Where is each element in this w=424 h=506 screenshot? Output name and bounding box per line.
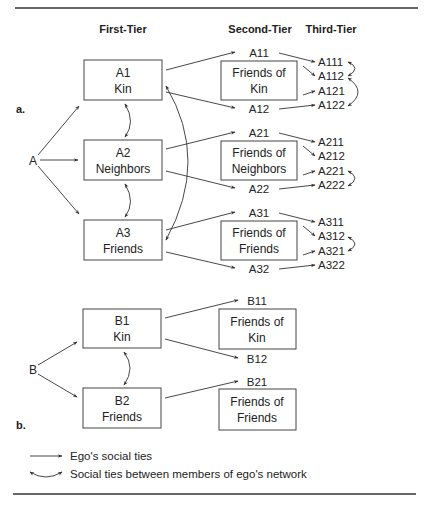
header-first-tier: First-Tier xyxy=(99,23,147,35)
fok-line1: Friends of xyxy=(232,66,286,80)
node-a112: A112 xyxy=(318,70,344,82)
node-a11: A11 xyxy=(249,47,269,59)
legend: Ego's social ties Social ties between me… xyxy=(30,450,307,480)
ego-a: A xyxy=(29,154,37,168)
header-third-tier: Third-Tier xyxy=(305,23,357,35)
panel-b-label: b. xyxy=(16,419,26,431)
fof-line2: Friends xyxy=(239,242,279,256)
b-fok-line1: Friends of xyxy=(230,315,284,329)
b1-type: Kin xyxy=(113,330,130,344)
a3-id: A3 xyxy=(116,226,131,240)
legend-ego-ties: Ego's social ties xyxy=(70,450,152,462)
fof-line1: Friends of xyxy=(232,226,286,240)
network-ties-arc-icon xyxy=(30,472,62,477)
b-fof-line2: Friends xyxy=(237,411,277,425)
a2-id: A2 xyxy=(116,146,131,160)
a3-type: Friends xyxy=(103,242,143,256)
node-a122: A122 xyxy=(318,99,345,111)
node-a32: A32 xyxy=(249,263,269,275)
node-a211: A211 xyxy=(318,136,344,148)
b1-id: B1 xyxy=(115,314,130,328)
panel-a: A a. A1 Kin A2 Neighbors A3 Friends Frie… xyxy=(16,47,358,275)
node-a31: A31 xyxy=(249,207,269,219)
node-b21: B21 xyxy=(247,376,267,388)
b2-id: B2 xyxy=(115,394,130,408)
a1-type: Kin xyxy=(114,82,131,96)
node-a322: A322 xyxy=(318,259,345,271)
node-a221: A221 xyxy=(318,165,345,177)
b-fof-line1: Friends of xyxy=(230,395,284,409)
legend-network-ties: Social ties between members of ego's net… xyxy=(70,468,307,480)
ego-b: B xyxy=(29,363,37,377)
fon-line2: Neighbors xyxy=(232,162,287,176)
node-a121: A121 xyxy=(318,85,345,97)
b-fok-line2: Kin xyxy=(248,331,265,345)
fon-line1: Friends of xyxy=(232,146,286,160)
ego-network-diagram: First-Tier Second-Tier Third-Tier A a. A… xyxy=(0,0,424,506)
node-a22: A22 xyxy=(249,183,269,195)
node-a111: A111 xyxy=(318,56,343,68)
node-a212: A212 xyxy=(318,150,345,162)
node-a311: A311 xyxy=(318,216,344,228)
fok-line2: Kin xyxy=(250,82,267,96)
node-b11: B11 xyxy=(247,295,267,307)
node-a222: A222 xyxy=(318,179,345,191)
a1-id: A1 xyxy=(116,66,131,80)
node-a12: A12 xyxy=(249,103,269,115)
header-second-tier: Second-Tier xyxy=(228,23,292,35)
panel-a-label: a. xyxy=(16,103,25,115)
b2-type: Friends xyxy=(102,410,142,424)
node-b12: B12 xyxy=(247,353,267,365)
a2-type: Neighbors xyxy=(96,162,151,176)
node-a321: A321 xyxy=(318,245,345,257)
panel-b: B b. B1 Kin B2 Friends Friends of Kin Fr… xyxy=(16,295,296,431)
node-a312: A312 xyxy=(318,230,345,242)
node-a21: A21 xyxy=(249,127,269,139)
